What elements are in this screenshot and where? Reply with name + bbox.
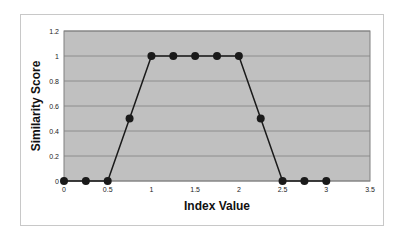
x-tick-label: 0 bbox=[62, 186, 66, 193]
x-tick-label: 2 bbox=[237, 186, 241, 193]
data-point bbox=[126, 115, 134, 123]
data-point bbox=[82, 177, 90, 185]
data-point bbox=[213, 52, 221, 60]
data-point bbox=[147, 52, 155, 60]
y-axis-ticks: 00.20.40.60.811.2 bbox=[49, 28, 59, 185]
y-tick-label: 0.2 bbox=[49, 153, 59, 160]
x-axis-ticks: 00.511.522.533.5 bbox=[62, 186, 375, 193]
line-chart: 00.20.40.60.811.2 00.511.522.533.5 Index… bbox=[0, 0, 401, 242]
data-point bbox=[322, 177, 330, 185]
x-tick-label: 3.5 bbox=[365, 186, 375, 193]
x-tick-label: 2.5 bbox=[278, 186, 288, 193]
y-tick-label: 0.6 bbox=[49, 103, 59, 110]
data-point bbox=[257, 115, 265, 123]
y-tick-label: 0.4 bbox=[49, 128, 59, 135]
x-tick-label: 1 bbox=[149, 186, 153, 193]
x-axis-title: Index Value bbox=[184, 199, 250, 213]
x-tick-label: 0.5 bbox=[103, 186, 113, 193]
y-tick-label: 1 bbox=[55, 53, 59, 60]
data-point bbox=[169, 52, 177, 60]
y-tick-label: 0 bbox=[55, 178, 59, 185]
y-tick-label: 0.8 bbox=[49, 78, 59, 85]
data-point bbox=[60, 177, 68, 185]
data-point bbox=[300, 177, 308, 185]
x-tick-label: 1.5 bbox=[190, 186, 200, 193]
x-tick-label: 3 bbox=[324, 186, 328, 193]
y-axis-title: Similarity Score bbox=[29, 60, 43, 151]
y-tick-label: 1.2 bbox=[49, 28, 59, 35]
data-point bbox=[279, 177, 287, 185]
data-point bbox=[191, 52, 199, 60]
data-point bbox=[104, 177, 112, 185]
data-point bbox=[235, 52, 243, 60]
